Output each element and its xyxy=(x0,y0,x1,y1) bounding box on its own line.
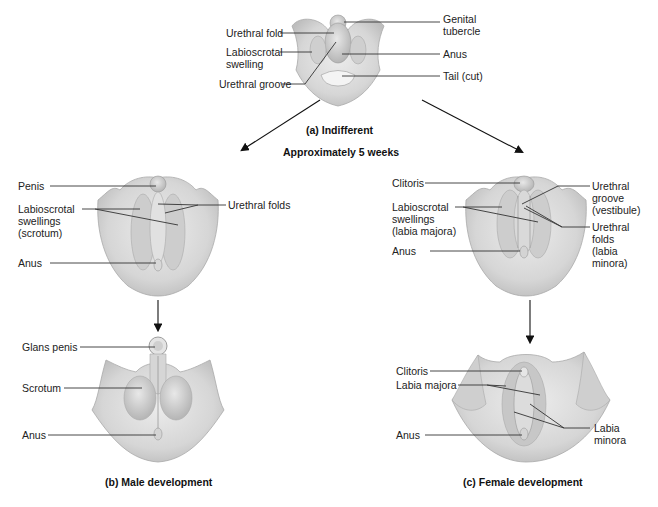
label-labioscrotal-swelling-1: Labioscrotal xyxy=(226,46,283,58)
label-labioscrotal-male-1: Labioscrotal xyxy=(18,203,75,215)
label-labia-majora: Labia majora xyxy=(396,379,457,391)
male-stage2-illustration xyxy=(92,337,224,462)
label-labioscrotal-female-2: swellings xyxy=(392,213,435,225)
label-glans-penis: Glans penis xyxy=(22,341,77,353)
caption-female-development: (c) Female development xyxy=(463,476,583,488)
label-urethral-folds-female-1: Urethral xyxy=(592,221,629,233)
label-penis: Penis xyxy=(18,180,44,192)
label-anus-female-2: Anus xyxy=(396,429,420,441)
label-labioscrotal-swelling-2: swelling xyxy=(226,58,263,70)
label-scrotum: Scrotum xyxy=(22,382,61,394)
label-anus-female-1: Anus xyxy=(392,245,416,257)
label-anus-male-2: Anus xyxy=(22,429,46,441)
label-anus-male-1: Anus xyxy=(18,257,42,269)
label-urethral-groove-female-1: Urethral xyxy=(592,180,629,192)
label-clitoris-1: Clitoris xyxy=(392,177,424,189)
label-labia-minora-1: Labia xyxy=(594,422,620,434)
label-clitoris-2: Clitoris xyxy=(396,365,428,377)
label-urethral-folds-female-3: (labia xyxy=(592,245,618,257)
label-labioscrotal-male-3: (scrotum) xyxy=(18,227,62,239)
male-stage1-illustration xyxy=(98,176,219,296)
caption-indifferent: (a) Indifferent xyxy=(306,124,373,136)
label-urethral-folds-male: Urethral folds xyxy=(228,199,290,211)
label-urethral-fold: Urethral fold xyxy=(226,27,283,39)
label-urethral-groove-female-3: (vestibule) xyxy=(592,204,640,216)
label-labia-minora-2: minora xyxy=(594,434,626,446)
label-genital-tubercle-1: Genital xyxy=(443,13,476,25)
label-urethral-folds-female-4: minora) xyxy=(592,257,628,269)
caption-male-development: (b) Male development xyxy=(105,476,212,488)
label-anus-indifferent: Anus xyxy=(443,48,467,60)
diagram-canvas xyxy=(0,0,658,507)
label-labioscrotal-male-2: swellings xyxy=(18,215,61,227)
caption-approx-5-weeks: Approximately 5 weeks xyxy=(283,146,399,158)
label-urethral-folds-female-2: folds xyxy=(592,233,614,245)
label-labioscrotal-female-1: Labioscrotal xyxy=(392,201,449,213)
female-stage2-illustration xyxy=(452,352,610,462)
label-urethral-groove: Urethral groove xyxy=(219,78,291,90)
indifferent-embryo-illustration xyxy=(292,15,384,106)
label-urethral-groove-female-2: groove xyxy=(592,192,624,204)
female-stage1-illustration xyxy=(466,176,587,296)
label-genital-tubercle-2: tubercle xyxy=(443,25,480,37)
label-tail-cut: Tail (cut) xyxy=(443,70,483,82)
label-labioscrotal-female-3: (labia majora) xyxy=(392,225,456,237)
